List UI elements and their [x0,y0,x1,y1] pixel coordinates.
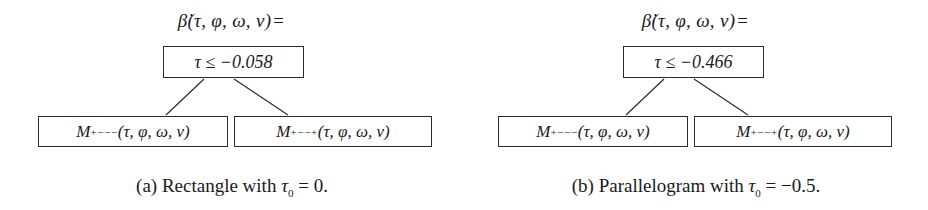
caption-param-subscript-a: 0 [288,187,294,199]
root-label-a: β̇(τ, φ, ω, v)= [0,10,464,32]
connector-right-b [694,79,748,115]
caption-marker-a: (a) [136,175,157,196]
leaf-right-symbol-b: M [736,122,750,142]
condition-text-b: τ ≤ −0.466 [655,52,733,73]
root-equals-a: = [271,10,286,31]
leaf-right-symbol-a: M [276,122,290,142]
subfigure-a: β̇(τ, φ, ω, v)= τ ≤ −0.058 M+−−−(τ, φ, ω… [0,0,464,210]
leaf-left-symbol-b: M [536,122,550,142]
subfigure-b: β̇(τ, φ, ω, v)= τ ≤ −0.466 M+−−−(τ, φ, ω… [464,0,928,210]
leaf-right-arguments-a: (τ, φ, ω, v) [318,122,390,142]
leaf-left-arguments-a: (τ, φ, ω, v) [118,122,190,142]
leaf-right-superscript-b: +−−+ [751,126,778,138]
leaf-node-left-a[interactable]: M+−−−(τ, φ, ω, v) [38,116,228,147]
leaf-left-symbol-a: M [76,122,90,142]
caption-value-b: −0.5. [781,175,820,196]
leaf-node-left-b[interactable]: M+−−−(τ, φ, ω, v) [498,116,688,147]
connector-left-b [626,79,664,115]
root-function-a: β̇(τ, φ, ω, v) [178,10,272,31]
leaf-right-superscript-a: +−−+ [291,126,318,138]
caption-value-a: 0. [314,175,328,196]
caption-param-a: τ [281,175,288,196]
figure-pair: β̇(τ, φ, ω, v)= τ ≤ −0.058 M+−−−(τ, φ, ω… [0,0,928,210]
leaf-left-superscript-a: +−−− [91,126,118,138]
caption-b: (b) Parallelogram with τ0 = −0.5. [464,175,928,199]
caption-text-b: Parallelogram with [599,175,744,196]
connector-right-a [234,79,288,115]
caption-marker-b: (b) [572,175,594,196]
caption-param-subscript-b: 0 [755,187,761,199]
condition-text-a: τ ≤ −0.058 [195,52,273,73]
root-function-b: β̇(τ, φ, ω, v) [642,10,736,31]
leaf-left-superscript-b: +−−− [551,126,578,138]
leaf-node-right-b[interactable]: M+−−+(τ, φ, ω, v) [694,116,892,147]
root-equals-b: = [735,10,750,31]
leaf-left-arguments-b: (τ, φ, ω, v) [578,122,650,142]
condition-node-a[interactable]: τ ≤ −0.058 [163,46,304,78]
caption-text-a: Rectangle with [162,175,277,196]
root-label-b: β̇(τ, φ, ω, v)= [464,10,928,32]
caption-equals-a: = [298,175,309,196]
leaf-node-right-a[interactable]: M+−−+(τ, φ, ω, v) [234,116,432,147]
caption-a: (a) Rectangle with τ0 = 0. [0,175,464,199]
connector-left-a [166,79,204,115]
caption-equals-b: = [766,175,777,196]
condition-node-b[interactable]: τ ≤ −0.466 [623,46,764,78]
leaf-right-arguments-b: (τ, φ, ω, v) [778,122,850,142]
